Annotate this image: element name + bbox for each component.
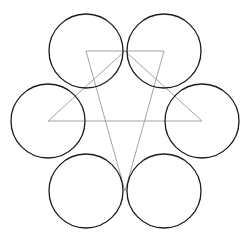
circle-bottom-right bbox=[127, 154, 201, 228]
triangle-layer bbox=[48, 51, 202, 191]
circle-bottom-left bbox=[49, 154, 123, 228]
triangle-up bbox=[48, 51, 202, 121]
figure-canvas bbox=[0, 0, 251, 240]
geometric-figure-svg bbox=[0, 0, 251, 240]
